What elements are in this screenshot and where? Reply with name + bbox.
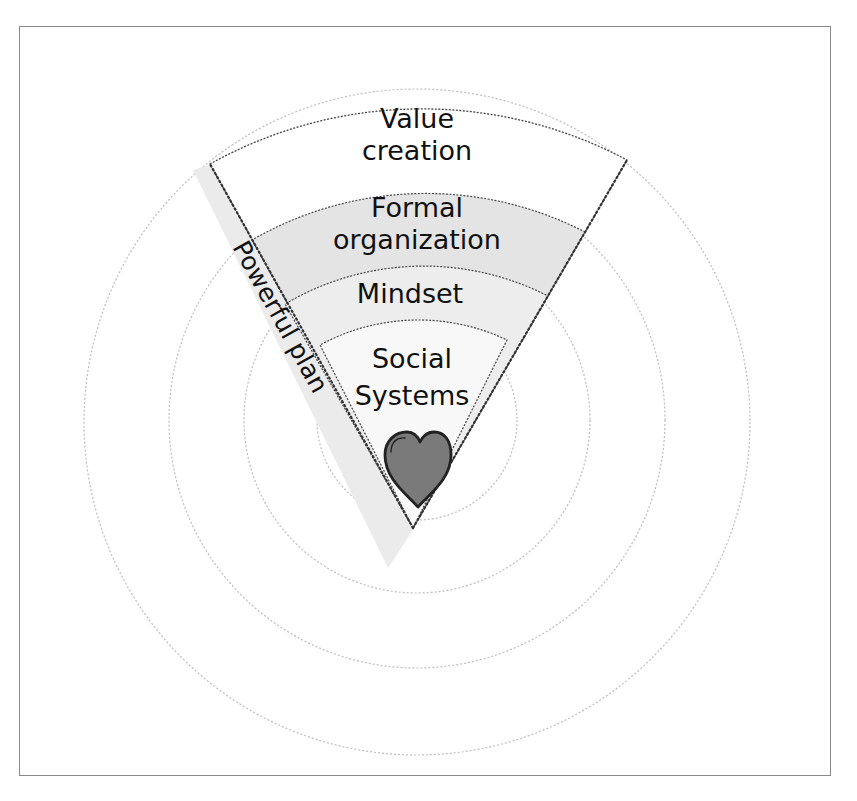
label-social-systems-1: Social <box>372 343 452 374</box>
label-formal-organization-1: Formal <box>371 192 463 223</box>
label-mindset: Mindset <box>357 278 463 309</box>
label-value-creation-2: creation <box>362 135 472 166</box>
label-value-creation-1: Value <box>380 103 454 134</box>
label-social-systems-2: Systems <box>355 380 470 411</box>
concentric-layers-diagram: Value creation Formal organization Minds… <box>0 0 857 801</box>
label-formal-organization-2: organization <box>333 224 501 255</box>
